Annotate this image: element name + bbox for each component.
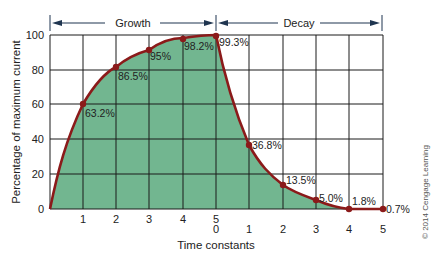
point-label: 1.8% xyxy=(352,195,376,207)
x-tick-label: 1 xyxy=(246,223,252,235)
x-tick-label: 4 xyxy=(346,223,352,235)
point-label: 95% xyxy=(150,50,171,62)
growth-label: Growth xyxy=(115,17,150,29)
point-label: 13.5% xyxy=(286,174,316,186)
decay-label: Decay xyxy=(283,17,315,29)
x-tick-label: 0 xyxy=(213,223,219,235)
point-label: 0.7% xyxy=(386,203,410,215)
y-axis-title: Percentage of maximum current xyxy=(10,39,22,203)
x-tick-label: 5 xyxy=(380,223,386,235)
y-tick-label: 100 xyxy=(26,29,44,41)
y-tick-label: 40 xyxy=(32,133,44,145)
point-label: 5.0% xyxy=(319,192,343,204)
point-label: 36.8% xyxy=(252,139,282,151)
x-tick-label: 3 xyxy=(313,223,319,235)
copyright-credit: © 2014 Cengage Learning xyxy=(421,145,430,239)
x-tick-label: 2 xyxy=(280,223,286,235)
point-label: 98.2% xyxy=(184,40,214,52)
x-tick-label: 2 xyxy=(113,213,119,225)
y-tick-label: 60 xyxy=(32,98,44,110)
point-label: 86.5% xyxy=(118,70,148,82)
point-label: 63.2% xyxy=(85,107,115,119)
point-label: 99.3% xyxy=(219,36,249,48)
y-tick-label: 80 xyxy=(32,64,44,76)
x-tick-label: 4 xyxy=(180,213,186,225)
x-axis-title: Time constants xyxy=(177,239,255,251)
y-tick-label: 0 xyxy=(38,203,44,215)
y-tick-label: 20 xyxy=(32,168,44,180)
x-tick-label: 3 xyxy=(146,213,152,225)
rl-current-chart: 63.2% 86.5% 95% 98.2% 99.3% 36.8% 13.5% … xyxy=(0,0,433,262)
x-tick-label: 1 xyxy=(80,213,86,225)
